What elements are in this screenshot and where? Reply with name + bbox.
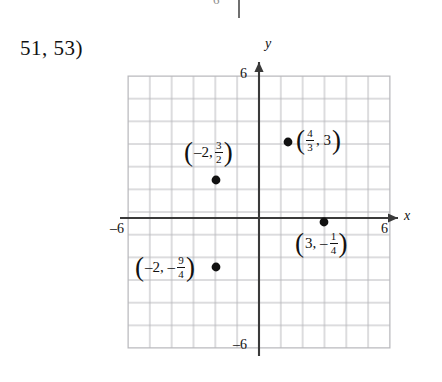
point-label-y: , 3 bbox=[315, 133, 332, 148]
point-label-x: –2, – bbox=[144, 260, 176, 275]
point-label-neg2-neg9over4: ( –2, – 9 4 ) bbox=[135, 255, 195, 280]
point-label-3-neg1over4: ( 3, – 1 4 ) bbox=[295, 231, 348, 256]
point-label-4over3-3: ( 4 3 , 3 ) bbox=[296, 128, 341, 153]
x-axis-label: x bbox=[404, 208, 410, 224]
point-label-neg2-3over2: ( –2, 3 2 ) bbox=[184, 140, 233, 165]
coordinate-plane: y x –6 6 6 –6 ( –2, 3 2 ) ( 4 3 , 3 bbox=[0, 0, 442, 382]
point-label-x: –2, bbox=[193, 145, 214, 160]
x-tick-label-pos6: 6 bbox=[381, 221, 388, 237]
point-label-x: 3, – bbox=[304, 236, 329, 251]
fraction-denominator: 4 bbox=[177, 269, 185, 280]
data-point bbox=[212, 176, 221, 185]
fraction-numerator: 3 bbox=[215, 140, 223, 151]
x-tick-label-neg6: –6 bbox=[110, 221, 124, 237]
fraction-4-over-3: 4 3 bbox=[306, 128, 314, 153]
fraction-denominator: 4 bbox=[330, 245, 338, 256]
figure-page: 6 51, 53) bbox=[0, 0, 442, 382]
data-point bbox=[320, 218, 329, 227]
fraction-numerator: 9 bbox=[177, 255, 185, 266]
fraction-numerator: 1 bbox=[330, 231, 338, 242]
grid-and-axes-svg bbox=[0, 0, 442, 382]
fraction-numerator: 4 bbox=[306, 128, 314, 139]
data-point bbox=[284, 138, 293, 147]
data-point bbox=[212, 263, 221, 272]
fraction-1-over-4: 1 4 bbox=[330, 231, 338, 256]
fraction-denominator: 3 bbox=[306, 142, 314, 153]
y-axis-label: y bbox=[265, 36, 271, 52]
fraction-3-over-2: 3 2 bbox=[215, 140, 223, 165]
y-tick-label-pos6: 6 bbox=[240, 66, 247, 82]
fraction-9-over-4: 9 4 bbox=[177, 255, 185, 280]
y-tick-label-neg6: –6 bbox=[233, 337, 247, 353]
fraction-denominator: 2 bbox=[215, 154, 223, 165]
